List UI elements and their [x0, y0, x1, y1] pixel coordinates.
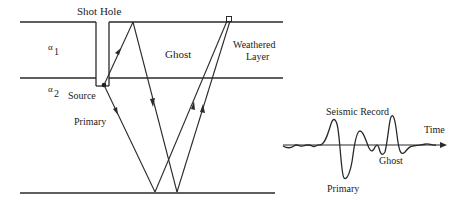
- time-axis-label: Time: [424, 124, 445, 135]
- ghost-label: Ghost: [165, 48, 191, 60]
- time-axis-arrow-icon: [440, 142, 447, 148]
- seismic-record: Seismic Record Time Primary Ghost: [283, 106, 447, 194]
- seismic-record-title: Seismic Record: [326, 106, 389, 117]
- weathered-layer-label-line1: Weathered: [233, 39, 276, 50]
- primary-upgoing-ray: [155, 21, 227, 192]
- arrow-icon: [113, 107, 118, 115]
- shot-hole: [96, 22, 109, 86]
- ghost-event-label: Ghost: [379, 155, 403, 166]
- arrow-icon: [115, 48, 121, 55]
- alpha1-symbol: α: [48, 42, 53, 52]
- receiver-icon: [227, 17, 232, 22]
- weathered-layer-label-line2: Layer: [246, 51, 270, 62]
- alpha2-subscript: 2: [54, 88, 59, 99]
- primary-event-label: Primary: [327, 183, 359, 194]
- seismic-ghost-diagram: Shot Hole Ghost Weathered Layer α 1 α 2 …: [0, 0, 463, 204]
- seismic-waveform: [283, 116, 436, 179]
- primary-downgoing-ray: [104, 85, 155, 192]
- source-label: Source: [68, 90, 96, 101]
- shot-hole-label: Shot Hole: [77, 5, 121, 17]
- alpha1-subscript: 1: [54, 46, 59, 57]
- primary-ray-label: Primary: [74, 116, 106, 127]
- alpha2-symbol: α: [48, 84, 53, 94]
- ray-paths: [104, 21, 230, 192]
